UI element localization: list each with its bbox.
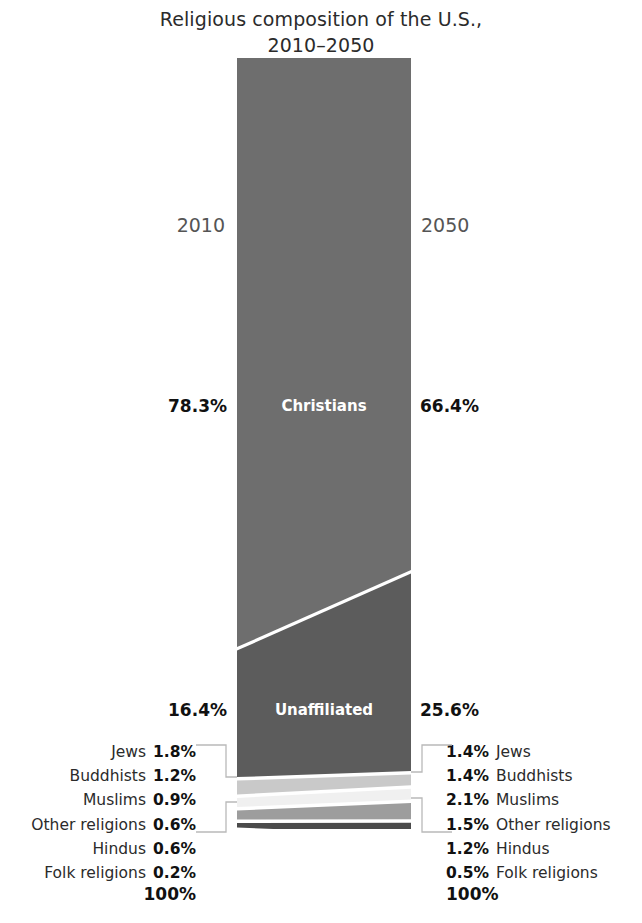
list-item: Jews1.8% xyxy=(0,740,196,764)
leader-bracket-right xyxy=(411,740,453,840)
total-left: 100% xyxy=(0,884,196,904)
row-value: 0.6% xyxy=(153,816,196,834)
row-value: 0.9% xyxy=(153,791,196,809)
title-line-2: 2010–2050 xyxy=(0,32,642,58)
row-value: 1.2% xyxy=(153,767,196,785)
row-value: 1.8% xyxy=(153,743,196,761)
total-right: 100% xyxy=(446,884,642,904)
list-item: Buddhists1.2% xyxy=(0,764,196,788)
year-label-right: 2050 xyxy=(421,214,621,236)
small-religions-list-left: Jews1.8% Buddhists1.2% Muslims0.9% Other… xyxy=(0,740,196,885)
list-item: Hindus0.6% xyxy=(0,837,196,861)
list-item: 2.1%Muslims xyxy=(446,788,642,812)
row-label: Folk religions xyxy=(44,864,146,882)
title-line-1: Religious composition of the U.S., xyxy=(0,6,642,32)
row-label: Buddhists xyxy=(496,767,573,785)
leader-bracket-left xyxy=(196,740,238,840)
unaffiliated-value-left: 16.4% xyxy=(0,700,227,720)
row-value: 0.2% xyxy=(153,864,196,882)
row-label: Jews xyxy=(496,743,531,761)
row-label: Jews xyxy=(111,743,146,761)
unaffiliated-value-right: 25.6% xyxy=(420,700,630,720)
list-item: 1.4%Jews xyxy=(446,740,642,764)
list-item: 1.5%Other religions xyxy=(446,813,642,837)
band-christians xyxy=(237,58,411,647)
row-label: Folk religions xyxy=(496,864,598,882)
list-item: Other religions0.6% xyxy=(0,813,196,837)
list-item: 1.2%Hindus xyxy=(446,837,642,861)
row-value: 0.5% xyxy=(446,864,489,882)
unaffiliated-band-label: Unaffiliated xyxy=(237,701,411,719)
row-label: Other religions xyxy=(496,816,611,834)
list-item: Muslims0.9% xyxy=(0,788,196,812)
row-label: Muslims xyxy=(496,791,559,809)
row-label: Buddhists xyxy=(70,767,147,785)
christians-value-left: 78.3% xyxy=(0,396,227,416)
row-value: 0.6% xyxy=(153,840,196,858)
row-label: Muslims xyxy=(83,791,146,809)
row-value: 1.2% xyxy=(446,840,489,858)
list-item: 1.4%Buddhists xyxy=(446,764,642,788)
row-label: Other religions xyxy=(31,816,146,834)
year-label-left: 2010 xyxy=(0,214,225,236)
row-label: Hindus xyxy=(92,840,146,858)
page-title: Religious composition of the U.S., 2010–… xyxy=(0,6,642,58)
band-other-religions xyxy=(237,823,411,829)
list-item: Folk religions0.2% xyxy=(0,861,196,885)
christians-band-label: Christians xyxy=(237,397,411,415)
list-item: 0.5%Folk religions xyxy=(446,861,642,885)
small-religions-list-right: 1.4%Jews 1.4%Buddhists 2.1%Muslims 1.5%O… xyxy=(446,740,642,885)
christians-value-right: 66.4% xyxy=(420,396,630,416)
row-label: Hindus xyxy=(496,840,550,858)
